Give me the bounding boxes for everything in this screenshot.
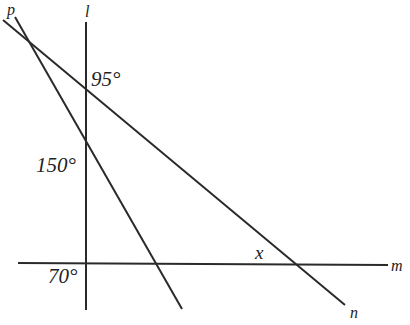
angle-label-70: 70° [48,264,78,288]
label-p: p [6,1,15,19]
label-l: l [85,3,90,20]
angle-label-150: 150° [36,153,77,177]
angle-label-x: x [254,242,264,263]
label-m: m [391,257,403,274]
label-n: n [350,304,358,321]
angle-label-95: 95° [91,67,121,91]
geometry-diagram: p l m n 95° 150° 70° x [0,0,410,325]
